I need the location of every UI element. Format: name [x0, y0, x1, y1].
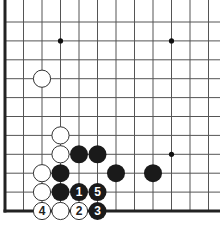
white-stone-disc: [52, 202, 69, 219]
move-number: 2: [76, 204, 83, 218]
black-stone-5: 5: [89, 183, 107, 201]
black-stone: [144, 164, 162, 182]
white-stone-disc: [33, 184, 50, 201]
black-stone-disc: [89, 145, 107, 163]
white-stone-disc: [33, 165, 50, 182]
white-stone: [52, 146, 69, 163]
black-stone: [89, 145, 107, 163]
white-stone-disc: [52, 127, 69, 144]
black-stone-disc: [70, 145, 88, 163]
black-stone: [52, 164, 70, 182]
go-board: 15423: [0, 0, 223, 225]
white-stone-disc: [52, 146, 69, 163]
black-stone-1: 1: [70, 183, 88, 201]
white-stone: [52, 202, 69, 219]
move-number: 1: [76, 185, 83, 199]
black-stone: [70, 145, 88, 163]
star-point: [58, 38, 63, 43]
white-stone: [33, 165, 50, 182]
black-stone: [107, 164, 125, 182]
black-stone-disc: [52, 164, 70, 182]
move-number: 3: [94, 204, 101, 218]
white-stone-4: 4: [33, 202, 50, 219]
white-stone: [33, 70, 50, 87]
black-stone-disc: [52, 183, 70, 201]
white-stone-2: 2: [70, 202, 87, 219]
move-number: 5: [94, 185, 101, 199]
black-stone-disc: [107, 164, 125, 182]
black-stone: [52, 183, 70, 201]
white-stone: [33, 184, 50, 201]
star-point: [169, 38, 174, 43]
black-stone-disc: [144, 164, 162, 182]
black-stone-3: 3: [89, 202, 107, 220]
move-number: 4: [39, 204, 46, 218]
white-stone: [52, 127, 69, 144]
star-point: [169, 152, 174, 157]
white-stone-disc: [33, 70, 50, 87]
